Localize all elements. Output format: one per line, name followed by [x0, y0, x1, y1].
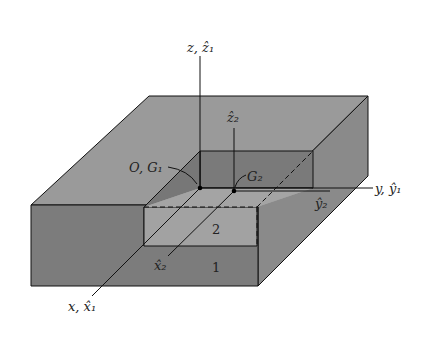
y-axis-label: y, ŷ₁ — [374, 181, 401, 196]
y2-axis-label: ŷ₂ — [314, 196, 328, 211]
g2-label: G₂ — [247, 169, 263, 184]
body2-label: 2 — [212, 222, 220, 237]
block-diagram: z, ẑ₁ ẑ₂ y, ŷ₁ ŷ₂ x, x̂₁ x̂₂ O, G₁ G₂ 2 … — [0, 0, 426, 339]
origin-point — [198, 186, 203, 191]
body1-label: 1 — [212, 260, 220, 275]
x-axis-label: x, x̂₁ — [68, 299, 96, 314]
z-axis-label: z, ẑ₁ — [186, 40, 214, 55]
x2-axis-label: x̂₂ — [154, 258, 167, 273]
origin-label: O, G₁ — [129, 160, 163, 175]
g2-point — [232, 189, 237, 194]
z2-axis-label: ẑ₂ — [226, 110, 239, 125]
